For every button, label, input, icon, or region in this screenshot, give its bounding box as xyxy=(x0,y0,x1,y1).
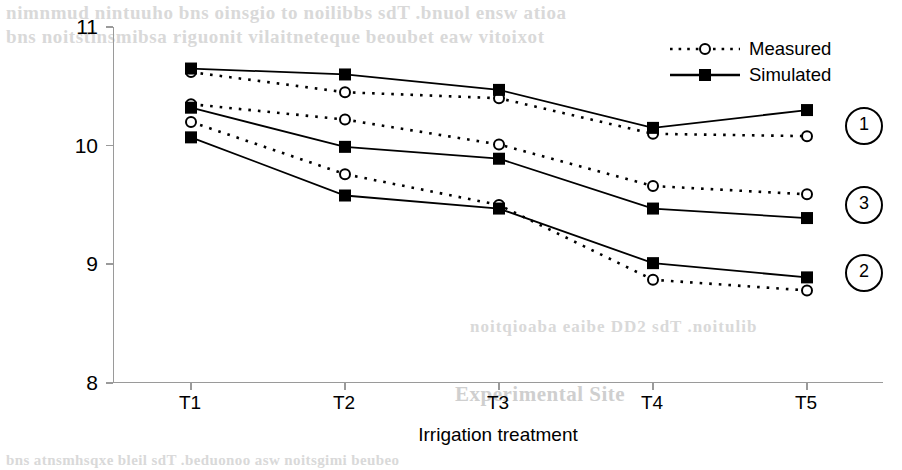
data-point-marker xyxy=(801,104,813,116)
background-bleed-text-5: bns atnsmhsqxe bleil sdT .beduonoo asw n… xyxy=(6,452,400,469)
data-point-marker xyxy=(339,141,351,153)
data-point-marker xyxy=(648,181,658,191)
data-point-marker xyxy=(185,63,197,75)
y-tick-label: 11 xyxy=(58,16,98,37)
legend-label-simulated: Simulated xyxy=(749,64,831,86)
data-point-marker xyxy=(802,131,812,141)
data-point-marker xyxy=(340,115,350,125)
data-point-marker xyxy=(340,169,350,179)
y-tick-label: 8 xyxy=(58,372,98,393)
x-tick-label-t1: T1 xyxy=(160,392,220,414)
chart-legend: Measured Simulated xyxy=(668,36,831,88)
data-point-marker xyxy=(185,102,197,114)
data-point-marker xyxy=(186,117,196,127)
series-callout-3: 3 xyxy=(845,186,883,224)
dotted-line-open-circle-icon xyxy=(668,39,742,59)
data-point-marker xyxy=(339,190,351,202)
data-point-marker xyxy=(647,257,659,269)
data-point-marker xyxy=(802,285,812,295)
y-tick-mark xyxy=(106,26,113,28)
data-point-marker xyxy=(801,271,813,283)
solid-line-filled-square-icon xyxy=(668,65,742,85)
data-point-marker xyxy=(493,203,505,215)
x-tick-mark xyxy=(498,383,500,390)
y-tick-mark xyxy=(106,263,113,265)
x-tick-mark xyxy=(806,383,808,390)
y-tick-mark xyxy=(106,145,113,147)
data-point-marker xyxy=(647,203,659,215)
legend-item-simulated: Simulated xyxy=(668,62,831,88)
data-point-marker xyxy=(493,153,505,165)
legend-label-measured: Measured xyxy=(749,38,831,60)
data-point-marker xyxy=(802,189,812,199)
y-tick-label: 9 xyxy=(58,253,98,274)
y-tick-mark xyxy=(106,382,113,384)
y-tick-label: 10 xyxy=(58,135,98,156)
data-point-marker xyxy=(493,84,505,96)
data-point-marker xyxy=(339,68,351,80)
x-tick-label-t5: T5 xyxy=(776,392,836,414)
data-point-marker xyxy=(647,122,659,134)
x-tick-mark xyxy=(344,383,346,390)
legend-item-measured: Measured xyxy=(668,36,831,62)
chart-page: nimnmud nintuuho bns oinsgio to noilibbs… xyxy=(0,0,902,470)
x-tick-label-t4: T4 xyxy=(622,392,682,414)
data-point-marker xyxy=(340,87,350,97)
x-axis-label: Irrigation treatment xyxy=(113,424,883,446)
data-point-marker xyxy=(185,131,197,143)
x-tick-label-t2: T2 xyxy=(314,392,374,414)
x-tick-mark xyxy=(190,383,192,390)
x-tick-mark xyxy=(652,383,654,390)
data-point-marker xyxy=(801,212,813,224)
x-tick-label-t3: T3 xyxy=(468,392,528,414)
data-point-marker xyxy=(494,139,504,149)
data-point-marker xyxy=(648,275,658,285)
